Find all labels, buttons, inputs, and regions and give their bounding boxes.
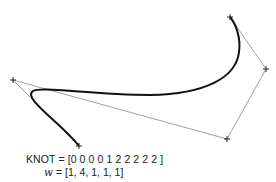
- nurbs-curve: [31, 17, 239, 146]
- weight-vector-label: w = [1, 4, 1, 1, 1]: [44, 166, 123, 178]
- control-polygon: [13, 17, 266, 146]
- weight-values: = [1, 4, 1, 1, 1]: [53, 166, 123, 178]
- control-point-3-icon: [263, 66, 269, 72]
- weight-symbol: w: [44, 166, 53, 178]
- control-point-2-icon: [224, 136, 230, 142]
- control-point-markers: [10, 14, 269, 149]
- knot-vector-label: KNOT = [0 0 0 0 1 2 2 2 2 2 ]: [26, 153, 163, 165]
